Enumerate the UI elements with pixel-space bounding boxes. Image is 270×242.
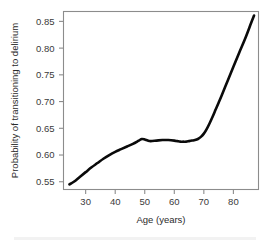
y-tick-label: 0.55	[36, 176, 55, 187]
chart-figure: 0.550.600.650.700.750.800.85 30405060708…	[0, 0, 270, 242]
x-tick-label: 60	[169, 196, 180, 207]
x-tick-label: 80	[228, 196, 239, 207]
plot-frame	[64, 12, 259, 190]
x-tick-label: 40	[110, 196, 121, 207]
x-axis-title: Age (years)	[136, 214, 185, 225]
probability-curve	[69, 16, 254, 185]
y-tick-label: 0.85	[36, 16, 55, 27]
y-axis-title: Probability of transitioning to delirium	[9, 23, 20, 178]
y-tick-label: 0.80	[36, 43, 55, 54]
y-axis-tick-marks	[59, 21, 64, 181]
y-tick-label: 0.75	[36, 69, 55, 80]
y-tick-label: 0.65	[36, 123, 55, 134]
x-tick-label: 30	[80, 196, 91, 207]
x-tick-label: 70	[199, 196, 210, 207]
x-tick-label: 50	[139, 196, 150, 207]
x-axis-tick-labels: 304050607080	[80, 196, 238, 207]
y-tick-label: 0.70	[36, 96, 55, 107]
y-axis-tick-labels: 0.550.600.650.700.750.800.85	[36, 16, 55, 187]
x-axis-tick-marks	[86, 190, 234, 195]
y-tick-label: 0.60	[36, 149, 55, 160]
page-footer-artifact	[14, 237, 256, 240]
line-chart: 0.550.600.650.700.750.800.85 30405060708…	[0, 0, 270, 242]
